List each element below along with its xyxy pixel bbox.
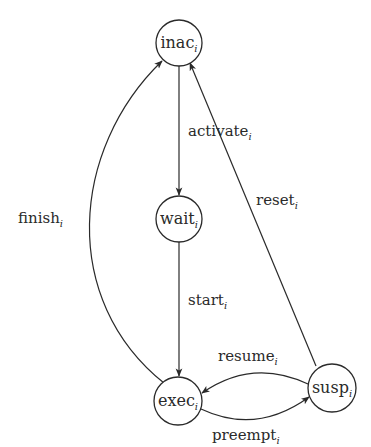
state-diagram: inaci waiti execi suspi activatei starti… bbox=[0, 0, 371, 447]
edge-label-start: starti bbox=[188, 291, 227, 311]
node-susp: suspi bbox=[308, 364, 356, 412]
edge-reset bbox=[190, 63, 316, 366]
edge-label-resume: resumei bbox=[218, 347, 278, 367]
edge-finish bbox=[89, 61, 164, 383]
edge-label-reset: reseti bbox=[256, 191, 298, 211]
edge-resume bbox=[202, 373, 308, 393]
state-label: suspi bbox=[312, 378, 352, 399]
edge-label-finish: finishi bbox=[18, 209, 63, 229]
edges bbox=[89, 61, 316, 419]
state-label: waiti bbox=[160, 209, 198, 230]
node-wait: waiti bbox=[156, 196, 202, 242]
node-exec: execi bbox=[154, 377, 202, 425]
edge-preempt bbox=[201, 397, 309, 419]
state-label: inaci bbox=[160, 33, 197, 54]
edge-label-activate: activatei bbox=[188, 122, 252, 142]
edge-label-preempt: preempti bbox=[212, 426, 280, 446]
state-label: execi bbox=[158, 391, 198, 412]
node-inac: inaci bbox=[156, 20, 202, 66]
